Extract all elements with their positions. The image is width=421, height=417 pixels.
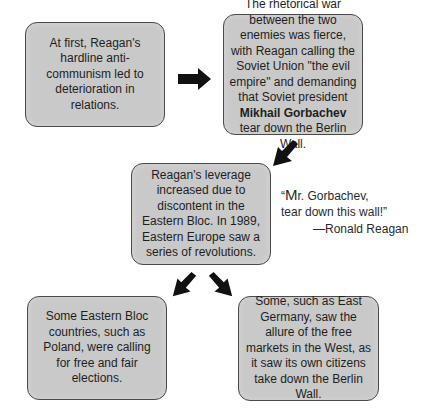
quote-line-2: tear down this wall!”	[281, 204, 421, 220]
arrow-right-icon	[178, 68, 212, 90]
gorbachev-quote: “Mr. Gorbachev, tear down this wall!”	[281, 187, 421, 220]
box-rhetorical-war-text-start: The rhetorical war between the two enemi…	[229, 0, 356, 104]
box-east-germany-text: Some, such as East Germany, saw the allu…	[245, 294, 372, 403]
box-east-germany: Some, such as East Germany, saw the allu…	[238, 296, 379, 401]
box-reagan-hardline: At first, Reagan's hardline anti-communi…	[25, 22, 165, 127]
box-reagan-leverage-text: Reagan's leverage increased due to disco…	[140, 168, 262, 261]
quote-line-1: “Mr. Gorbachev,	[281, 187, 421, 204]
quote-attribution: —Ronald Reagan	[313, 222, 408, 236]
box-eastern-bloc-elections-text: Some Eastern Bloc countries, such as Pol…	[36, 309, 158, 387]
arrow-down-left-icon	[170, 271, 198, 299]
box-reagan-hardline-text: At first, Reagan's hardline anti-communi…	[34, 36, 156, 114]
box-rhetorical-war-text: The rhetorical war between the two enemi…	[229, 0, 357, 152]
arrow-down-left-icon	[270, 140, 300, 168]
box-reagan-leverage: Reagan's leverage increased due to disco…	[131, 163, 271, 265]
arrow-down-right-icon	[207, 271, 235, 299]
gorbachev-name: Mikhail Gorbachev	[240, 106, 347, 120]
box-eastern-bloc-elections: Some Eastern Bloc countries, such as Pol…	[27, 296, 167, 400]
box-rhetorical-war: The rhetorical war between the two enemi…	[223, 14, 363, 135]
